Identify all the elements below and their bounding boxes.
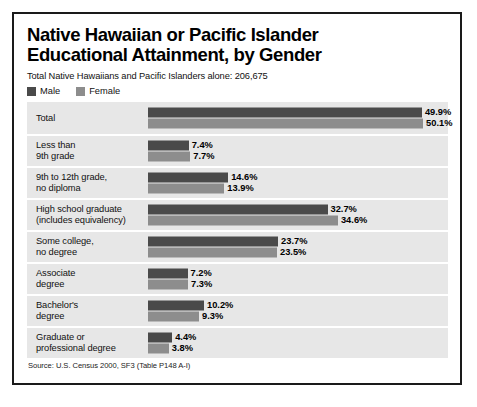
- chart-source: Source: U.S. Census 2000, SF3 (Table P14…: [28, 361, 448, 370]
- bar-value-label: 7.2%: [191, 268, 212, 278]
- chart-title-line-1: Native Hawaiian or Pacific Islander: [27, 25, 448, 45]
- chart-row-label: Some college, no degree: [36, 236, 94, 257]
- chart-row-label: Graduate or professional degree: [36, 332, 116, 353]
- legend-label-male: Male: [40, 86, 60, 96]
- bar-segment-female: [148, 216, 338, 226]
- bar-value-label: 4.4%: [175, 332, 196, 342]
- legend-swatch-male-icon: [27, 87, 36, 96]
- bar-segment-female: [148, 184, 224, 194]
- chart-row-label: 9th to 12th grade, no diploma: [36, 172, 107, 193]
- chart-row: 9th to 12th grade, no diploma14.6%13.9%: [27, 168, 448, 198]
- chart-row: Bachelor's degree10.2%9.3%: [27, 296, 448, 326]
- chart-bar-female: 9.3%: [148, 312, 458, 322]
- chart-row: Less than 9th grade7.4%7.7%: [27, 136, 448, 166]
- bar-value-label: 23.5%: [280, 247, 306, 257]
- chart-row-bars: 7.4%7.7%: [148, 140, 458, 163]
- bar-segment-male: [148, 237, 278, 247]
- chart-row-bars: 49.9%50.1%: [148, 107, 458, 130]
- chart-row: Total49.9%50.1%: [27, 102, 448, 134]
- bar-value-label: 7.4%: [192, 140, 213, 150]
- bar-segment-male: [148, 108, 422, 118]
- chart-plot-area: Total49.9%50.1%Less than 9th grade7.4%7.…: [27, 102, 448, 358]
- chart-row-label: Associate degree: [36, 268, 75, 289]
- bar-value-label: 34.6%: [341, 215, 367, 225]
- bar-value-label: 32.7%: [331, 204, 357, 214]
- chart-bar-male: 32.7%: [148, 205, 458, 215]
- chart-row-bars: 10.2%9.3%: [148, 300, 458, 323]
- chart-row-bars: 4.4%3.8%: [148, 332, 458, 355]
- chart-title-line-2: Educational Attainment, by Gender: [27, 45, 448, 65]
- bar-segment-female: [148, 344, 169, 354]
- chart-bar-female: 3.8%: [148, 344, 458, 354]
- chart-bar-female: 50.1%: [148, 119, 458, 129]
- chart-row: High school graduate (includes equivalen…: [27, 200, 448, 230]
- chart-row: Associate degree7.2%7.3%: [27, 264, 448, 294]
- bar-value-label: 49.9%: [425, 107, 451, 117]
- bar-segment-male: [148, 141, 189, 151]
- legend-entry-male: Male: [27, 86, 60, 96]
- legend-swatch-female-icon: [76, 87, 85, 96]
- chart-bar-female: 13.9%: [148, 184, 458, 194]
- chart-legend: Male Female: [27, 86, 448, 96]
- bar-segment-male: [148, 301, 204, 311]
- chart-row: Graduate or professional degree4.4%3.8%: [27, 328, 448, 358]
- bar-segment-female: [148, 312, 199, 322]
- chart-bar-male: 4.4%: [148, 333, 458, 343]
- chart-bar-male: 10.2%: [148, 301, 458, 311]
- chart-frame: Native Hawaiian or Pacific Islander Educ…: [12, 12, 462, 385]
- chart-bar-female: 7.3%: [148, 280, 458, 290]
- chart-row-label: High school graduate (includes equivalen…: [36, 204, 126, 225]
- bar-segment-male: [148, 173, 228, 183]
- chart-row-bars: 7.2%7.3%: [148, 268, 458, 291]
- bar-value-label: 23.7%: [281, 236, 307, 246]
- chart-row-bars: 14.6%13.9%: [148, 172, 458, 195]
- chart-bar-female: 7.7%: [148, 152, 458, 162]
- chart-bar-male: 49.9%: [148, 108, 458, 118]
- chart-row: Some college, no degree23.7%23.5%: [27, 232, 448, 262]
- chart-row-label: Less than 9th grade: [36, 140, 75, 161]
- chart-bar-male: 14.6%: [148, 173, 458, 183]
- chart-subtitle: Total Native Hawaiians and Pacific Islan…: [27, 71, 448, 81]
- bar-value-label: 50.1%: [426, 118, 452, 128]
- bar-value-label: 13.9%: [227, 183, 253, 193]
- chart-title: Native Hawaiian or Pacific Islander Educ…: [27, 25, 448, 64]
- chart-bar-female: 34.6%: [148, 216, 458, 226]
- chart-inner: Native Hawaiian or Pacific Islander Educ…: [14, 14, 460, 383]
- bar-value-label: 10.2%: [207, 300, 233, 310]
- chart-bar-male: 23.7%: [148, 237, 458, 247]
- chart-row-label: Total: [36, 113, 55, 124]
- bar-segment-female: [148, 119, 423, 129]
- bar-value-label: 9.3%: [202, 311, 223, 321]
- chart-bar-male: 7.4%: [148, 141, 458, 151]
- bar-value-label: 3.8%: [172, 343, 193, 353]
- bar-segment-female: [148, 248, 277, 258]
- legend-label-female: Female: [89, 86, 120, 96]
- bar-value-label: 7.3%: [191, 279, 212, 289]
- chart-bar-female: 23.5%: [148, 248, 458, 258]
- bar-segment-male: [148, 269, 188, 279]
- chart-row-label: Bachelor's degree: [36, 300, 78, 321]
- bar-value-label: 7.7%: [193, 151, 214, 161]
- bar-segment-male: [148, 205, 328, 215]
- bar-segment-female: [148, 152, 190, 162]
- chart-bar-male: 7.2%: [148, 269, 458, 279]
- bar-segment-female: [148, 280, 188, 290]
- bar-value-label: 14.6%: [231, 172, 257, 182]
- bar-segment-male: [148, 333, 172, 343]
- legend-entry-female: Female: [76, 86, 120, 96]
- chart-row-bars: 23.7%23.5%: [148, 236, 458, 259]
- chart-row-bars: 32.7%34.6%: [148, 204, 458, 227]
